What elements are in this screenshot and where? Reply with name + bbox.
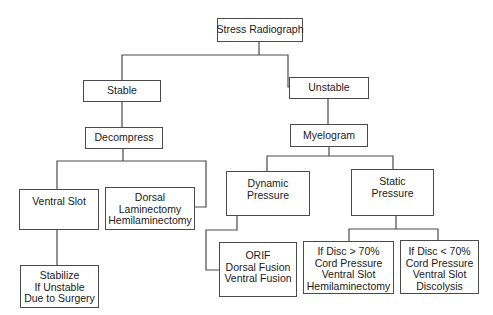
node-label: If Disc > 70% <box>304 246 393 258</box>
node-stable: Stable <box>83 80 161 102</box>
node-label: Ventral Fusion <box>220 273 296 285</box>
node-unstable: Unstable <box>289 77 369 99</box>
node-label: Dorsal <box>106 192 194 204</box>
node-static-pressure: Static Pressure <box>351 169 434 216</box>
node-ventral-slot: Ventral Slot <box>19 189 99 230</box>
node-label: Hemilaminectomy <box>304 281 393 293</box>
node-disc-greater-70: If Disc > 70% Cord Pressure Ventral Slot… <box>303 241 394 294</box>
node-label: If Disc < 70% <box>401 246 478 258</box>
node-dynamic-pressure: Dynamic Pressure <box>226 171 310 216</box>
node-label: Dynamic <box>227 178 309 190</box>
node-label: Ventral Slot <box>20 196 98 208</box>
node-label: Static <box>352 176 433 188</box>
node-disc-less-70: If Disc < 70% Cord Pressure Ventral Slot… <box>400 240 479 294</box>
edge-myelogram <box>267 146 393 171</box>
node-stabilize: Stabilize If Unstable Due to Surgery <box>20 265 99 308</box>
node-dorsal-laminectomy: Dorsal Laminectomy Hemilaminectomy <box>105 187 195 230</box>
node-label: Discolysis <box>401 281 478 293</box>
node-label: Stress Radiograph <box>217 24 304 36</box>
node-label: Hemilaminectomy <box>106 215 194 227</box>
node-label: Pressure <box>227 190 309 202</box>
node-stress-radiograph: Stress Radiograph <box>217 18 303 42</box>
node-label: Decompress <box>95 132 154 144</box>
node-orif: ORIF Dorsal Fusion Ventral Fusion <box>219 242 297 297</box>
node-label: Stabilize <box>21 270 98 282</box>
node-decompress: Decompress <box>85 127 163 149</box>
node-label: Ventral Slot <box>401 269 478 281</box>
edge-static-discs <box>349 215 438 241</box>
node-myelogram: Myelogram <box>290 124 368 147</box>
node-label: Ventral Slot <box>304 269 393 281</box>
node-label: ORIF <box>220 250 296 262</box>
node-label: Unstable <box>308 82 349 94</box>
node-label: Myelogram <box>303 130 355 142</box>
node-label: Due to Surgery <box>21 293 98 305</box>
node-label: Stable <box>107 85 137 97</box>
node-label: Pressure <box>352 188 433 200</box>
